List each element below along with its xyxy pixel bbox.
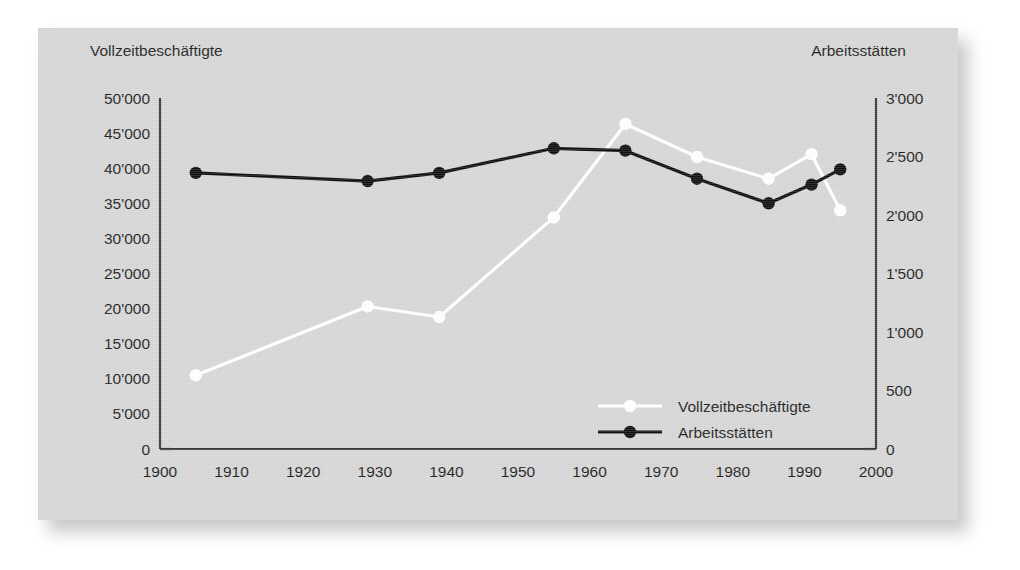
y-tick-label: 15'000 — [104, 335, 150, 352]
data-point-marker — [190, 369, 202, 381]
y-tick-label: 50'000 — [104, 90, 150, 107]
data-point-marker — [361, 300, 373, 312]
x-tick-label: 1950 — [501, 463, 536, 480]
x-tick-label: 1990 — [787, 463, 822, 480]
legend-label: Arbeitsstätten — [678, 424, 773, 441]
y-tick-label: 20'000 — [104, 300, 150, 317]
y-tick-label: 30'000 — [104, 230, 150, 247]
x-tick-label: 2000 — [859, 463, 894, 480]
data-point-marker — [433, 311, 445, 323]
x-tick-label: 1960 — [572, 463, 607, 480]
x-tick-label: 1900 — [143, 463, 178, 480]
data-point-marker — [619, 144, 631, 156]
x-axis: 1900 1910 1920 1930 1940 1950 1960 1970 … — [143, 449, 894, 480]
data-point-marker — [805, 178, 817, 190]
x-tick-label: 1970 — [644, 463, 679, 480]
data-point-marker — [548, 142, 560, 154]
y2-tick-label: 3'000 — [886, 90, 924, 107]
y-tick-label: 40'000 — [104, 160, 150, 177]
data-point-marker — [691, 151, 703, 163]
data-point-marker — [190, 167, 202, 179]
x-tick-label: 1980 — [716, 463, 751, 480]
y-tick-label: 5'000 — [113, 405, 151, 422]
y2-tick-label: 500 — [886, 382, 912, 399]
y2-tick-label: 1'000 — [886, 324, 924, 341]
data-point-marker — [762, 173, 774, 185]
y-tick-label: 35'000 — [104, 195, 150, 212]
series-line — [196, 124, 840, 375]
series-2 — [190, 142, 847, 209]
series-layer — [190, 118, 847, 382]
x-tick-label: 1930 — [358, 463, 393, 480]
left-axis-title: Vollzeitbeschäftigte — [90, 42, 223, 59]
legend-marker — [624, 400, 636, 412]
data-point-marker — [762, 197, 774, 209]
figure-card: Vollzeitbeschäftigte Arbeitsstätten 50'0… — [38, 28, 958, 520]
right-axis-title: Arbeitsstätten — [811, 42, 906, 59]
data-point-marker — [619, 118, 631, 130]
y-tick-label: 45'000 — [104, 125, 150, 142]
data-point-marker — [691, 173, 703, 185]
x-tick-label: 1940 — [429, 463, 464, 480]
y2-tick-label: 0 — [886, 441, 895, 458]
series-line — [196, 148, 840, 203]
left-y-axis: 50'000 45'000 40'000 35'000 30'000 25'00… — [104, 90, 172, 458]
right-y-axis: 3'000 2'500 2'000 1'500 1'000 500 0 — [864, 90, 924, 458]
y2-tick-label: 2'000 — [886, 207, 924, 224]
chart-legend: VollzeitbeschäftigteArbeitsstätten — [598, 398, 811, 441]
data-point-marker — [548, 211, 560, 223]
data-point-marker — [433, 167, 445, 179]
chart-page: Vollzeitbeschäftigte Arbeitsstätten 50'0… — [0, 0, 1020, 570]
data-point-marker — [834, 204, 846, 216]
x-tick-label: 1910 — [214, 463, 249, 480]
data-point-marker — [361, 175, 373, 187]
legend-label: Vollzeitbeschäftigte — [678, 398, 811, 415]
data-point-marker — [805, 148, 817, 160]
y2-tick-label: 2'500 — [886, 148, 924, 165]
y-tick-label: 10'000 — [104, 370, 150, 387]
legend-marker — [624, 426, 636, 438]
y-tick-label: 0 — [141, 441, 150, 458]
data-point-marker — [834, 163, 846, 175]
y2-tick-label: 1'500 — [886, 265, 924, 282]
x-tick-label: 1920 — [286, 463, 321, 480]
y-tick-label: 25'000 — [104, 265, 150, 282]
dual-axis-line-chart: Vollzeitbeschäftigte Arbeitsstätten 50'0… — [38, 28, 958, 520]
